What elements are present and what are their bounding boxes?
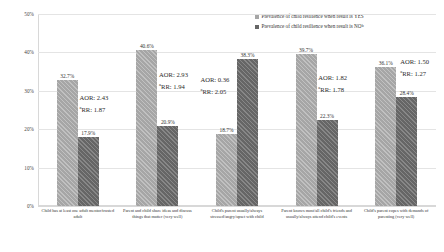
chart-container: Prevalence of child resilience when resu… [0,0,444,252]
aor-value: AOR: 1.82 [318,72,347,84]
bar-value-label: 17.9% [81,130,95,136]
bar-group: 36.1%28.4% [356,14,436,206]
rr-superscript: a [200,87,202,92]
bar-value-label: 20.9% [161,119,175,125]
category-label: Parent and child share ideas and discuss… [118,208,198,238]
bar-yes[interactable]: 36.1% [375,67,396,206]
rr-superscript: a [318,85,320,90]
bar-no[interactable]: 28.4% [396,97,417,206]
y-axis-tick-label: 30% [24,88,34,94]
bar-wrapper: 20.9% [157,126,178,206]
bar-wrapper: 40.6% [136,50,157,206]
bar-yes[interactable]: 39.7% [296,54,317,206]
rr-superscript: a [159,82,161,87]
rr-value: aRR: 1.78 [318,84,347,96]
bar-yes[interactable]: 18.7% [216,134,237,206]
rr-value: aRR: 1.94 [159,81,188,93]
rr-superscript: a [400,69,402,74]
y-axis-tick-label: 50% [24,11,34,17]
category-label: Child's parent usually/always stressed/a… [197,208,277,238]
stat-annotation: AOR: 2.43aRR: 1.87 [79,92,108,117]
bar-value-label: 28.4% [400,90,414,96]
bar-no[interactable]: 38.3% [237,59,258,206]
bar-value-label: 22.3% [320,113,334,119]
bar-group: 39.7%22.3% [277,14,357,206]
bar-value-label: 40.6% [140,43,154,49]
gridline [38,206,436,207]
aor-value: AOR: 0.36 [200,74,229,86]
bar-wrapper: 38.3% [237,59,258,206]
y-axis-tick-label: 0% [27,203,34,209]
aor-value: AOR: 1.50 [400,56,429,68]
bar-no[interactable]: 20.9% [157,126,178,206]
bar-group: 40.6%20.9% [118,14,198,206]
bar-value-label: 38.3% [241,52,255,58]
category-label: Parent knows most/all child's friends an… [277,208,357,238]
bar-yes[interactable]: 40.6% [136,50,157,206]
bar-wrapper: 18.7% [216,134,237,206]
stat-annotation: AOR: 0.36aRR: 2.05 [200,74,229,99]
bar-wrapper: 32.7% [57,80,78,206]
bar-value-label: 36.1% [379,60,393,66]
bar-wrapper: 28.4% [396,97,417,206]
x-axis-category-labels: Child has at least one adult mentor/trus… [38,208,436,238]
bar-no[interactable]: 17.9% [78,137,99,206]
aor-value: AOR: 2.93 [159,69,188,81]
y-axis-tick-label: 40% [24,49,34,55]
bar-value-label: 18.7% [220,127,234,133]
y-axis-tick-label: 10% [24,165,34,171]
bar-value-label: 32.7% [60,73,74,79]
rr-superscript: a [79,105,81,110]
rr-value: aRR: 1.27 [400,68,429,80]
plot-area: 50%40%30%20%10%0% 32.7%17.9%40.6%20.9%18… [38,14,436,206]
bar-yes[interactable]: 32.7% [57,80,78,206]
stat-annotation: AOR: 1.50aRR: 1.27 [400,56,429,81]
bar-wrapper: 39.7% [296,54,317,206]
bar-wrapper: 22.3% [317,120,338,206]
rr-value: aRR: 2.05 [200,86,229,98]
rr-value: aRR: 1.87 [79,104,108,116]
bar-wrapper: 36.1% [375,67,396,206]
category-label: Child's parent copes with demands of par… [356,208,436,238]
y-axis-tick-label: 20% [24,126,34,132]
bar-no[interactable]: 22.3% [317,120,338,206]
bar-value-label: 39.7% [299,47,313,53]
bar-wrapper: 17.9% [78,137,99,206]
bar-group: 18.7%38.3% [197,14,277,206]
stat-annotation: AOR: 1.82aRR: 1.78 [318,72,347,97]
stat-annotation: AOR: 2.93aRR: 1.94 [159,69,188,94]
category-label: Child has at least one adult mentor/trus… [38,208,118,238]
aor-value: AOR: 2.43 [79,92,108,104]
